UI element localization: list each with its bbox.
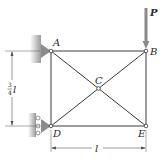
horizontal-dimension: l — [51, 130, 146, 154]
joint-c — [97, 87, 101, 91]
wall-d — [28, 113, 36, 137]
arrow-down — [11, 121, 14, 126]
load-arrow-head — [143, 41, 150, 49]
horizontal-dim-symbol: l — [95, 143, 98, 154]
joint-b — [144, 49, 148, 53]
roller-3 — [36, 131, 40, 135]
node-label-e: E — [137, 128, 146, 139]
truss-diagram: P A B C D E 3 4 l l — [0, 0, 167, 160]
fraction-numerator: 3 — [8, 81, 12, 88]
pin-support-a — [30, 35, 51, 63]
load-arrow-shaft — [145, 8, 148, 42]
arrow-right — [141, 147, 146, 150]
joint-a — [49, 49, 53, 53]
vertical-dim-symbol: l — [13, 84, 16, 95]
node-label-c: C — [95, 75, 103, 86]
node-label-b: B — [149, 46, 157, 57]
arrow-left — [51, 147, 56, 150]
node-label-d: D — [52, 128, 61, 139]
arrow-up — [11, 51, 14, 56]
load-p: P — [143, 7, 159, 49]
roller-support-d — [28, 113, 51, 137]
node-label-a: A — [52, 37, 60, 48]
roller-1 — [36, 116, 40, 120]
fraction-denominator: 4 — [8, 89, 12, 96]
wall-a — [30, 35, 41, 63]
load-label: P — [149, 7, 158, 18]
